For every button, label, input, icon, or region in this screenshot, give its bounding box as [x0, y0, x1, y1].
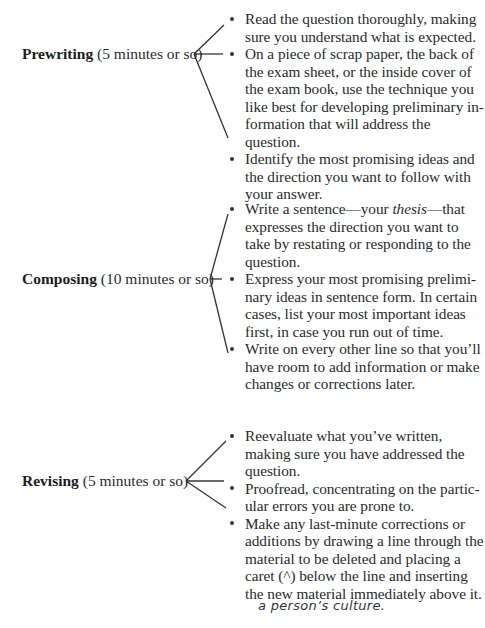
list-item: On a piece of scrap paper, the back of t… — [230, 45, 485, 150]
handwritten-note: a person’s culture. — [258, 598, 385, 613]
list-item: Read the question thoroughly, making sur… — [230, 10, 485, 45]
list-item: Write on every other line so that you’ll… — [230, 340, 485, 393]
thesis-emphasis: thesis — [392, 200, 427, 217]
section-label-prewriting: Prewriting (5 minutes or so) — [22, 45, 203, 63]
list-item: Reevaluate what you’ve written, making s… — [230, 427, 485, 480]
section-name: Revising — [22, 472, 79, 489]
item-text-part: Write a sentence—your — [245, 200, 392, 217]
composing-steps: Write a sentence—your thesis—that expres… — [230, 200, 485, 393]
section-time: (10 minutes or so) — [101, 270, 214, 287]
prewriting-steps: Read the question thoroughly, making sur… — [230, 10, 485, 203]
section-name: Composing — [22, 270, 97, 287]
list-item: Write a sentence—your thesis—that expres… — [230, 200, 485, 270]
section-label-composing: Composing (10 minutes or so) — [22, 270, 214, 288]
list-item: Express your most promising prelimi­nary… — [230, 270, 485, 340]
list-item: Make any last-minute corrections or addi… — [230, 515, 485, 603]
list-item: Identify the most promising ideas and th… — [230, 150, 485, 203]
section-name: Prewriting — [22, 45, 93, 62]
section-time: (5 minutes or so) — [83, 472, 188, 489]
list-item: Proofread, concentrating on the partic­u… — [230, 480, 485, 515]
section-time: (5 minutes or so) — [97, 45, 202, 62]
section-label-revising: Revising (5 minutes or so) — [22, 472, 188, 490]
revising-steps: Reevaluate what you’ve written, making s… — [230, 427, 485, 602]
